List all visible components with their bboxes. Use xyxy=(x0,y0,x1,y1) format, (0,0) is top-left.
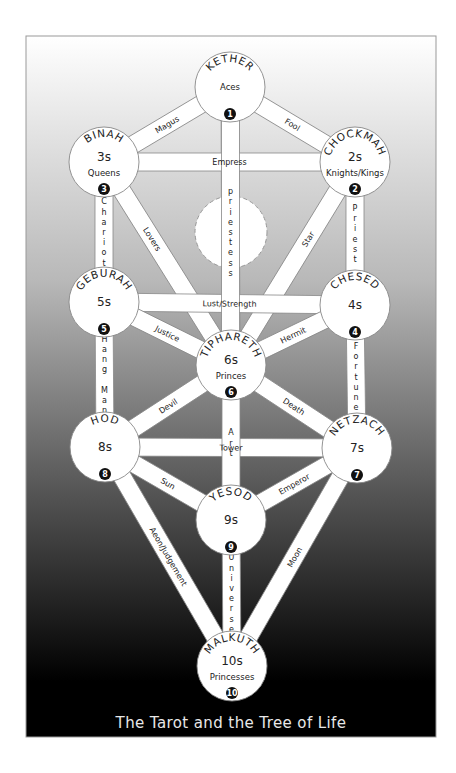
path-label-char: a xyxy=(102,345,107,354)
svg-text:9: 9 xyxy=(228,543,234,552)
sephirah-number: 7s xyxy=(350,441,364,455)
path-label-char: A xyxy=(228,428,234,437)
svg-text:4: 4 xyxy=(352,328,358,337)
sephirah-number-badge: 3 xyxy=(98,183,110,195)
path-label-char: s xyxy=(228,269,232,278)
path-label-char: n xyxy=(102,355,107,364)
path-label-char: e xyxy=(353,235,358,244)
sephirah-number: 9s xyxy=(224,513,238,527)
path-label-char: s xyxy=(353,245,357,254)
path-label-char: o xyxy=(354,352,359,361)
sephirah-number-badge: 9 xyxy=(225,541,237,553)
sephirah-tiphareth: TIPHARETH6sPrinces6 xyxy=(196,330,266,400)
path-label-lust-strength: Lust/Strength xyxy=(202,299,256,309)
path-label-char: u xyxy=(353,383,358,392)
path-label-char: i xyxy=(230,574,232,583)
svg-text:3: 3 xyxy=(101,185,107,194)
sephirah-hod: HOD8s8 xyxy=(70,412,140,482)
path-label-char: v xyxy=(229,584,234,593)
sephirah-number: 6s xyxy=(224,353,238,367)
svg-text:7: 7 xyxy=(354,471,360,480)
path-label-char: C xyxy=(101,197,107,206)
sephirah-malkuth: MALKUTH10sPrincesses10 xyxy=(197,631,267,701)
tree-of-life-diagram: MagusFoolpriestessEmpressChariotPriestLo… xyxy=(0,0,456,773)
path-label-char: h xyxy=(101,208,106,217)
path-label-char: e xyxy=(229,594,234,603)
sephirah-binah: BINAH3sQueens3 xyxy=(69,127,139,197)
svg-text:1: 1 xyxy=(227,110,233,119)
path-label-text: Empress xyxy=(212,158,246,167)
path-label-char: g xyxy=(102,365,107,374)
path-label-char: F xyxy=(354,342,359,351)
path-label-char: t xyxy=(102,259,105,268)
sephirah-number: 4s xyxy=(348,298,362,312)
sephirah-number-badge: 8 xyxy=(99,468,111,480)
sephirah-netzach: NETZACH7s7 xyxy=(322,413,392,483)
sephirah-chesed: CHESED4s4 xyxy=(320,270,390,340)
path-label-char: n xyxy=(353,393,358,402)
path-label-char: n xyxy=(229,564,234,573)
path-label-char: s xyxy=(228,228,232,237)
path-label-char: o xyxy=(102,248,107,257)
path-label-char: t xyxy=(354,373,357,382)
sephirah-suit: Princesses xyxy=(210,672,255,682)
svg-text:8: 8 xyxy=(102,470,108,479)
path-label-text: Lust/Strength xyxy=(202,299,256,309)
path-label-char: t xyxy=(229,449,232,458)
sephirah-number-badge: 7 xyxy=(351,469,363,481)
sephirah-suit: Aces xyxy=(220,82,241,92)
sephirah-chockmah: CHOCKMAH2sKnights/Kings2 xyxy=(320,127,390,197)
svg-text:2: 2 xyxy=(352,185,358,194)
diagram-caption: The Tarot and the Tree of Life xyxy=(115,714,347,732)
sephirah-suit: Queens xyxy=(88,168,121,178)
sephirah-number-badge: 4 xyxy=(349,326,361,338)
path-label-char: a xyxy=(102,396,107,405)
sephirah-number: 8s xyxy=(98,440,112,454)
sephirah-suit: Princes xyxy=(216,371,247,381)
sephirah-number: 2s xyxy=(348,150,362,164)
sephirah-kether: KETHERAces1 xyxy=(195,52,265,122)
path-label-char: a xyxy=(102,218,107,227)
path-label-char: M xyxy=(101,386,108,395)
path-label-char: p xyxy=(228,187,233,196)
path-label-empress: Empress xyxy=(212,158,246,167)
path-label-char: P xyxy=(353,204,358,213)
sephirah-number-badge: 2 xyxy=(349,183,361,195)
path-label-char: t xyxy=(229,238,232,247)
sephirah-number: 10s xyxy=(221,654,243,668)
svg-text:6: 6 xyxy=(228,388,234,397)
path-label-char: i xyxy=(354,224,356,233)
path-label-char: t xyxy=(353,255,356,264)
svg-text:5: 5 xyxy=(101,325,107,334)
sephirah-yesod: YESOD9s9 xyxy=(196,485,266,555)
sephirah-number: 3s xyxy=(97,150,111,164)
path-label-char: e xyxy=(228,248,233,257)
sephirah-number-badge: 5 xyxy=(98,323,110,335)
path-label-char: i xyxy=(229,208,231,217)
path-label-char: s xyxy=(228,259,232,268)
path-label-char: i xyxy=(103,238,105,247)
sephirah-number-badge: 1 xyxy=(224,108,236,120)
sephirah-number-badge: 10 xyxy=(226,687,238,699)
svg-text:10: 10 xyxy=(226,689,238,698)
sephirah-suit: Knights/Kings xyxy=(326,168,384,178)
path-label-char: s xyxy=(229,615,233,624)
sephirah-number-badge: 6 xyxy=(225,386,237,398)
diagram-canvas: MagusFoolpriestessEmpressChariotPriestLo… xyxy=(0,0,456,773)
path-label-char: e xyxy=(354,403,359,412)
sephirah-number: 5s xyxy=(97,295,111,309)
sephirah-geburah: GEBURAH5s5 xyxy=(69,267,139,337)
path-label-char: e xyxy=(228,218,233,227)
